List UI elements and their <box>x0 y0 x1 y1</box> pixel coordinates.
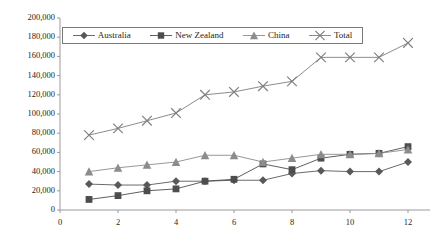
y-axis-tick-label: 160,000 <box>27 51 55 60</box>
legend-marker-diamond-icon <box>73 30 95 41</box>
chart-legend: AustraliaNew ZealandChinaTotal <box>62 27 363 44</box>
x-axis-tick-label: 0 <box>40 218 80 227</box>
legend-item-china[interactable]: China <box>241 30 292 41</box>
x-axis-tick-label: 12 <box>388 218 428 227</box>
legend-label: Total <box>334 31 352 40</box>
legend-item-total[interactable]: Total <box>307 30 354 41</box>
line-chart: 020,00040,00060,00080,000100,000120,0001… <box>0 0 439 250</box>
chart-axes <box>57 18 430 213</box>
legend-label: China <box>268 31 290 40</box>
legend-item-new-zealand[interactable]: New Zealand <box>148 30 225 41</box>
legend-marker-triangle-icon <box>243 30 265 41</box>
x-axis-tick-label: 8 <box>272 218 312 227</box>
chart-series-new-zealand <box>86 143 412 203</box>
y-axis-tick-label: 200,000 <box>27 13 55 22</box>
y-axis-tick-label: 0 <box>51 205 55 214</box>
y-axis-tick-label: 20,000 <box>32 186 55 195</box>
legend-item-australia[interactable]: Australia <box>71 30 133 41</box>
x-axis-tick-label: 6 <box>214 218 254 227</box>
x-axis-tick-label: 2 <box>98 218 138 227</box>
chart-series-group <box>84 38 413 203</box>
y-axis-tick-label: 100,000 <box>27 109 55 118</box>
y-axis-tick-label: 40,000 <box>32 167 55 176</box>
x-axis-tick-label: 10 <box>330 218 370 227</box>
legend-marker-cross-icon <box>309 30 331 41</box>
legend-label: New Zealand <box>175 31 223 40</box>
chart-series-china <box>85 145 413 175</box>
legend-marker-square-icon <box>150 30 172 41</box>
y-axis-tick-label: 60,000 <box>32 147 55 156</box>
chart-series-total <box>84 38 413 140</box>
y-axis-tick-label: 80,000 <box>32 128 55 137</box>
x-axis-tick-label: 4 <box>156 218 196 227</box>
legend-label: Australia <box>98 31 131 40</box>
chart-series-australia <box>85 158 412 189</box>
y-axis-tick-label: 180,000 <box>27 32 55 41</box>
y-axis-tick-label: 140,000 <box>27 71 55 80</box>
y-axis-tick-label: 120,000 <box>27 90 55 99</box>
